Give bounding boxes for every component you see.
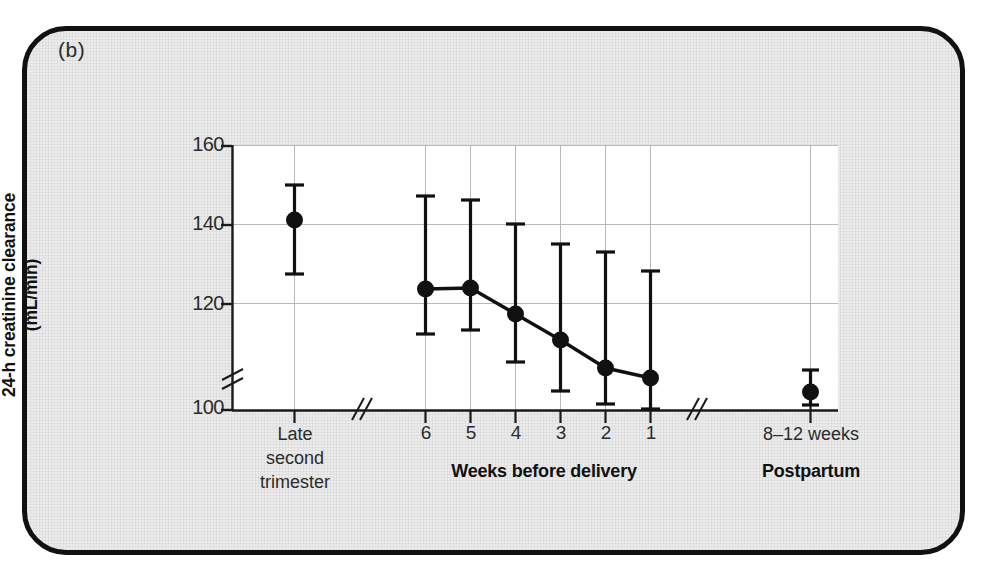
y-tick-label-160: 160: [168, 133, 224, 156]
y-axis-title: 24-h creatinine clearance (mL/min): [0, 150, 43, 440]
figure-panel-b: (b) 24-h creatinine clearance (mL/min) 1…: [0, 0, 984, 577]
x-group-left-line2: second: [235, 446, 355, 470]
x-axis-title-weeks: Weeks before delivery: [418, 461, 670, 482]
x-tick-label-week-2: 2: [590, 422, 622, 444]
x-tick-label-week-6: 6: [410, 422, 442, 444]
x-group-left-line1: Late: [235, 422, 355, 446]
x-tick-label-week-4: 4: [500, 422, 532, 444]
y-axis-title-line1: 24-h creatinine clearance: [0, 193, 19, 397]
y-tick-label-140: 140: [168, 212, 224, 235]
x-group-right-subtitle: 8–12 weeks: [726, 422, 896, 446]
y-tick-label-100: 100: [168, 396, 224, 419]
panel-label: (b): [58, 38, 85, 62]
x-group-left-line3: trimester: [235, 470, 355, 494]
y-tick-label-120: 120: [168, 292, 224, 315]
y-axis-title-line2: (mL/min): [20, 150, 42, 440]
x-tick-label-week-1: 1: [635, 422, 667, 444]
x-axis-title-postpartum: Postpartum: [726, 461, 896, 482]
x-tick-label-week-5: 5: [455, 422, 487, 444]
x-tick-label-week-3: 3: [545, 422, 577, 444]
